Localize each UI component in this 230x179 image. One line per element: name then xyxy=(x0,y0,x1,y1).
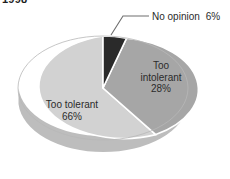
pie-chart-graphic xyxy=(0,0,230,179)
no-opinion-leader-line xyxy=(111,16,149,35)
slice-label-no-opinion-name: No opinion xyxy=(152,11,200,22)
slice-label-no-opinion: No opinion6% xyxy=(152,11,220,23)
slice-label-no-opinion-value: 6% xyxy=(206,11,220,22)
pie-chart: 1998 Too tolerant 66% Too intolerant 28%… xyxy=(0,0,230,179)
